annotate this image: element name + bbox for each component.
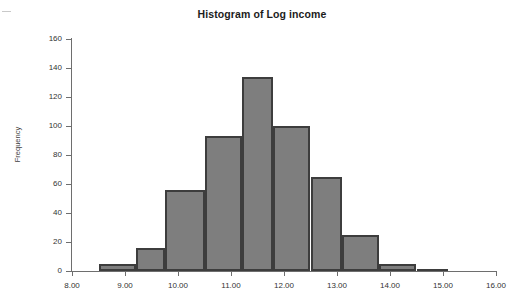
y-tick-label: 120 — [22, 92, 62, 101]
x-tick-label: 8.00 — [47, 281, 97, 290]
x-tick-mark — [125, 271, 126, 276]
x-tick-mark — [443, 271, 444, 276]
plot-area — [72, 39, 496, 271]
x-tick-mark — [72, 271, 73, 276]
histogram-bar — [417, 269, 449, 272]
y-tick-label: 0 — [22, 266, 62, 275]
x-tick-mark — [231, 271, 232, 276]
histogram-bar — [205, 136, 242, 271]
histogram-bar — [379, 264, 416, 271]
histogram-bar — [342, 235, 379, 271]
y-tick-label: 140 — [22, 63, 62, 72]
y-tick-mark — [66, 39, 71, 40]
y-tick-mark — [66, 213, 71, 214]
histogram-bar — [165, 190, 205, 271]
y-tick-mark — [66, 155, 71, 156]
x-tick-label: 12.00 — [259, 281, 309, 290]
y-tick-mark — [66, 68, 71, 69]
histogram-figure: Histogram of Log income Frequency 020406… — [0, 0, 524, 307]
x-tick-mark — [390, 271, 391, 276]
y-tick-label: 100 — [22, 121, 62, 130]
histogram-bar — [242, 77, 274, 271]
y-axis-title: Frequency — [13, 115, 22, 175]
y-tick-label: 60 — [22, 179, 62, 188]
x-tick-mark — [178, 271, 179, 276]
histogram-bar — [273, 126, 310, 271]
x-tick-label: 15.00 — [418, 281, 468, 290]
x-tick-label: 11.00 — [206, 281, 256, 290]
x-tick-mark — [284, 271, 285, 276]
y-tick-mark — [66, 126, 71, 127]
y-tick-mark — [66, 271, 71, 272]
y-tick-mark — [66, 184, 71, 185]
x-tick-label: 16.00 — [471, 281, 521, 290]
x-tick-label: 14.00 — [365, 281, 415, 290]
x-tick-label: 9.00 — [100, 281, 150, 290]
x-tick-label: 13.00 — [312, 281, 362, 290]
y-tick-mark — [66, 242, 71, 243]
x-tick-mark — [337, 271, 338, 276]
histogram-bar — [136, 248, 165, 271]
y-tick-label: 40 — [22, 208, 62, 217]
y-tick-label: 20 — [22, 237, 62, 246]
y-tick-label: 160 — [22, 34, 62, 43]
y-tick-mark — [66, 97, 71, 98]
x-tick-mark — [496, 271, 497, 276]
histogram-bar — [311, 177, 343, 271]
histogram-bar — [99, 264, 136, 271]
x-tick-label: 10.00 — [153, 281, 203, 290]
y-tick-label: 80 — [22, 150, 62, 159]
chart-title: Histogram of Log income — [0, 8, 524, 20]
